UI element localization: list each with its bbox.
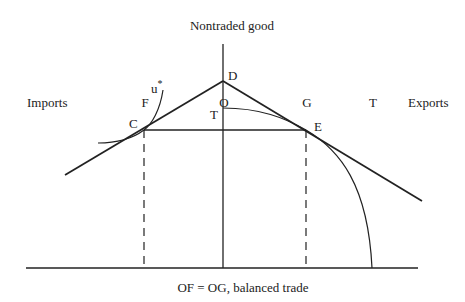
vertical-axis-label: Nontraded good (190, 18, 275, 33)
trade-diagram: Nontraded good D T C E u* Imports F O G … (0, 0, 465, 302)
point-t-vertical-label: T (210, 107, 218, 122)
production-frontier-curve (223, 108, 372, 268)
u-star-superscript: * (158, 78, 163, 89)
point-d-label: D (228, 68, 237, 83)
point-g-label: G (302, 95, 311, 110)
point-c-label: C (129, 116, 138, 131)
exports-label: Exports (408, 95, 448, 110)
point-e-label: E (314, 119, 322, 134)
caption: OF = OG, balanced trade (177, 280, 308, 295)
point-f-label: F (141, 95, 148, 110)
u-star-label: u* (151, 78, 163, 96)
point-t-horizontal-label: T (369, 95, 377, 110)
imports-label: Imports (27, 95, 67, 110)
point-o-label: O (219, 95, 228, 110)
